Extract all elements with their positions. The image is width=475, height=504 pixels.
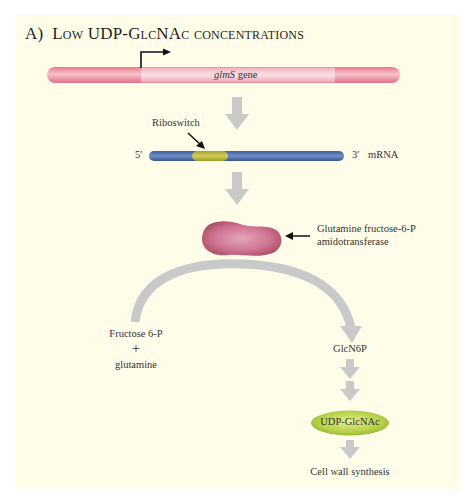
plus-sign: + <box>108 341 164 357</box>
riboswitch-pointer-arrow-icon <box>188 133 205 149</box>
enzyme-label-line1: Glutamine fructose-6-P <box>317 223 416 234</box>
promoter-arrow-icon <box>141 49 171 69</box>
five-prime-label: 5′ <box>135 149 143 160</box>
down-arrow-icon <box>340 381 360 401</box>
substrate-glutamine-label: glutamine <box>108 359 164 370</box>
glcn6p-label: GlcN6P <box>320 343 380 354</box>
enzyme-pointer-arrow-icon <box>285 232 310 240</box>
cell-wall-synthesis-label: Cell wall synthesis <box>300 466 400 477</box>
enzyme-blob <box>202 221 282 256</box>
reaction-arc-arrow-icon <box>135 264 362 343</box>
down-arrow-icon <box>340 440 360 459</box>
substrate-fructose-label: Fructose 6-P <box>108 328 164 339</box>
gene-label: glmS gene <box>214 69 257 80</box>
riboswitch-segment <box>192 151 228 161</box>
down-arrow-icon <box>225 172 249 205</box>
mrna-bar <box>149 151 344 161</box>
mrna-label: mRNA <box>368 149 398 160</box>
enzyme-label-line2: amidotransferase <box>317 236 389 247</box>
riboswitch-label: Riboswitch <box>152 117 200 128</box>
down-arrow-icon <box>340 359 360 379</box>
udp-glcnac-label: UDP-GlcNAc <box>311 416 389 427</box>
three-prime-label: 3′ <box>352 149 360 160</box>
down-arrow-icon <box>225 97 249 130</box>
